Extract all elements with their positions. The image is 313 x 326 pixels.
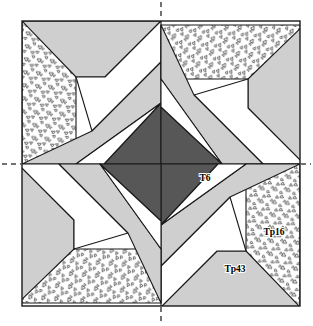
tiling-body	[18, 21, 304, 307]
label-tp16: Tp16	[263, 227, 284, 237]
tile-quadrant-1	[161, 25, 304, 164]
label-t6: T6	[199, 173, 210, 183]
figure-canvas: T6Tp16Tp43	[0, 0, 313, 326]
tile-quadrant-3	[18, 164, 161, 303]
tile-pieces-group	[18, 21, 304, 307]
label-tp43: Tp43	[224, 264, 245, 274]
tile-quadrant-0	[22, 21, 161, 164]
tiling-diagram: T6Tp16Tp43	[0, 0, 313, 326]
